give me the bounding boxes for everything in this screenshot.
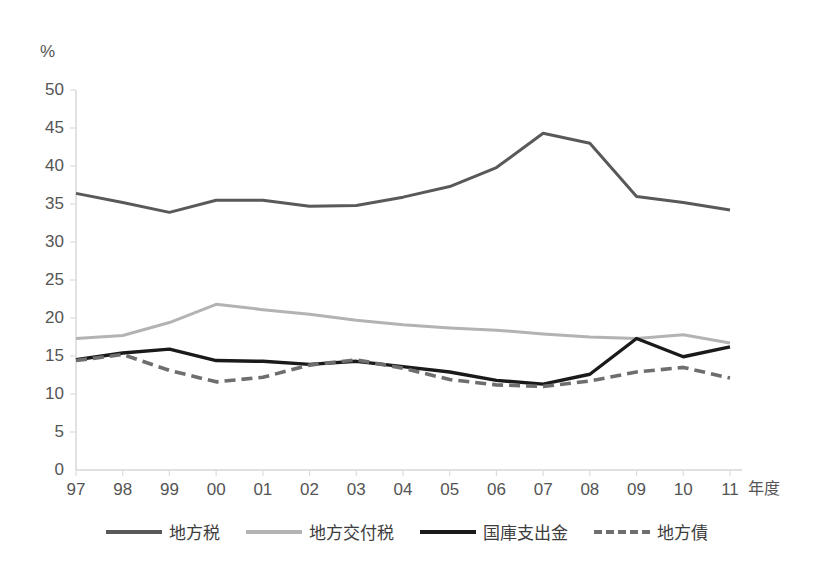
series-lines	[76, 133, 730, 386]
legend-label: 地方税	[169, 519, 220, 544]
series-line	[76, 354, 730, 386]
legend-item[interactable]: 地方税	[106, 519, 220, 544]
legend-item[interactable]: 地方交付税	[246, 519, 394, 544]
line-chart: % 05101520253035404550 97989900010203040…	[0, 0, 814, 583]
plot-area	[0, 0, 814, 583]
legend-label: 地方交付税	[309, 519, 394, 544]
legend-swatch	[246, 530, 302, 534]
series-line	[76, 133, 730, 212]
series-line	[76, 304, 730, 343]
series-line	[76, 339, 730, 385]
legend-label: 地方債	[657, 519, 708, 544]
legend-item[interactable]: 国庫支出金	[420, 519, 568, 544]
legend-swatch	[106, 530, 162, 534]
axis-lines	[70, 90, 742, 476]
legend-item[interactable]: 地方債	[594, 519, 708, 544]
chart-legend: 地方税地方交付税国庫支出金地方債	[0, 519, 814, 544]
legend-label: 国庫支出金	[483, 519, 568, 544]
legend-swatch	[594, 530, 650, 534]
legend-swatch	[420, 530, 476, 534]
